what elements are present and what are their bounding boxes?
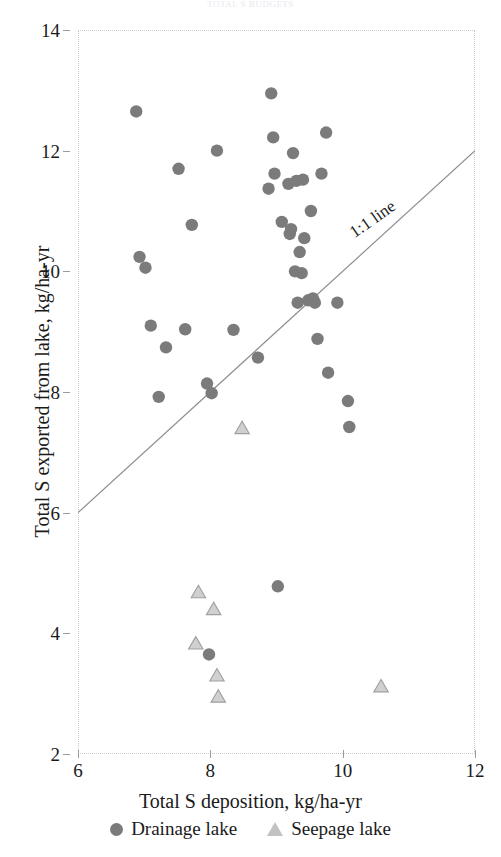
- data-markers-layer: [78, 30, 475, 754]
- data-point-drainage-lake: [186, 219, 198, 231]
- x-tick-label: 6: [73, 760, 83, 782]
- data-point-drainage-lake: [133, 251, 145, 263]
- x-axis-title: Total S deposition, kg/ha-yr: [0, 790, 501, 813]
- y-tick-mark: [63, 151, 70, 152]
- data-point-seepage-lake: [191, 585, 205, 597]
- data-point-drainage-lake: [293, 246, 305, 258]
- data-point-seepage-lake: [211, 690, 225, 702]
- y-tick-label: 14: [41, 21, 60, 40]
- data-point-drainage-lake: [265, 87, 277, 99]
- legend-label-seepage-lake: Seepage lake: [291, 818, 391, 840]
- data-point-drainage-lake: [309, 297, 321, 309]
- data-point-drainage-lake: [172, 163, 184, 175]
- triangle-marker-icon: [267, 822, 283, 836]
- y-tick-label: 2: [51, 745, 61, 764]
- data-point-drainage-lake: [211, 144, 223, 156]
- data-point-seepage-lake: [210, 669, 224, 681]
- y-tick-mark: [63, 271, 70, 272]
- x-tick-mark: [210, 750, 211, 758]
- scatter-plot-figure: TOTAL S BUDGETS 2468101214 Total S expor…: [0, 0, 501, 857]
- data-point-drainage-lake: [295, 267, 307, 279]
- y-tick-mark: [63, 392, 70, 393]
- data-point-drainage-lake: [305, 205, 317, 217]
- y-tick-mark: [63, 754, 70, 755]
- data-point-drainage-lake: [322, 366, 334, 378]
- data-point-drainage-lake: [227, 324, 239, 336]
- data-point-drainage-lake: [320, 126, 332, 138]
- y-axis-title: Total S exported from lake, kg/ha-yr: [31, 82, 54, 702]
- data-point-drainage-lake: [145, 319, 157, 331]
- y-tick-mark: [63, 513, 70, 514]
- data-point-drainage-lake: [331, 297, 343, 309]
- data-point-drainage-lake: [139, 262, 151, 274]
- legend-item-drainage-lake: Drainage lake: [110, 818, 237, 840]
- clipped-chart-title: TOTAL S BUDGETS: [0, 0, 501, 10]
- data-point-drainage-lake: [203, 648, 215, 660]
- y-tick-mark: [63, 30, 70, 31]
- data-point-drainage-lake: [343, 421, 355, 433]
- data-point-drainage-lake: [291, 297, 303, 309]
- legend-item-seepage-lake: Seepage lake: [267, 818, 391, 840]
- data-point-drainage-lake: [268, 167, 280, 179]
- data-point-drainage-lake: [298, 232, 310, 244]
- y-tick-mark: [63, 633, 70, 634]
- data-point-drainage-lake: [130, 105, 142, 117]
- legend-label-drainage-lake: Drainage lake: [131, 818, 237, 840]
- data-point-drainage-lake: [160, 341, 172, 353]
- x-tick-label: 10: [333, 760, 352, 782]
- x-tick-mark: [475, 750, 476, 758]
- data-point-drainage-lake: [287, 147, 299, 159]
- one-to-one-reference-line: [78, 151, 475, 513]
- data-point-drainage-lake: [262, 182, 274, 194]
- x-axis-ticks: 681012: [78, 760, 475, 786]
- data-point-drainage-lake: [267, 131, 279, 143]
- data-point-drainage-lake: [315, 167, 327, 179]
- data-point-drainage-lake: [272, 580, 284, 592]
- x-tick-mark: [78, 750, 79, 758]
- data-point-seepage-lake: [189, 637, 203, 649]
- data-point-drainage-lake: [285, 223, 297, 235]
- x-tick-label: 12: [466, 760, 485, 782]
- data-point-seepage-lake: [235, 421, 249, 433]
- data-point-drainage-lake: [297, 173, 309, 185]
- data-point-drainage-lake: [205, 387, 217, 399]
- data-point-drainage-lake: [179, 323, 191, 335]
- x-tick-mark: [343, 750, 344, 758]
- plot-area: [78, 30, 475, 754]
- data-point-drainage-lake: [252, 351, 264, 363]
- chart-legend: Drainage lake Seepage lake: [0, 818, 501, 840]
- data-point-drainage-lake: [311, 333, 323, 345]
- x-tick-label: 8: [206, 760, 216, 782]
- data-point-seepage-lake: [374, 679, 388, 691]
- circle-marker-icon: [110, 823, 123, 836]
- data-point-drainage-lake: [342, 395, 354, 407]
- data-point-drainage-lake: [153, 391, 165, 403]
- data-point-seepage-lake: [206, 602, 220, 614]
